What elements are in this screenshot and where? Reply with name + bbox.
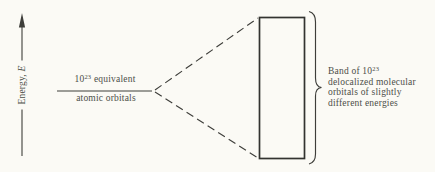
band-rectangle xyxy=(260,18,305,159)
energy-axis-label-text: Energy, xyxy=(17,72,27,105)
band-description-line2: delocalized molecular xyxy=(328,77,432,88)
energy-band-diagram: Energy, E 1023 equivalent atomic orbital… xyxy=(0,0,435,172)
band-brace xyxy=(309,12,322,165)
count-exponent: 23 xyxy=(84,73,91,80)
energy-variable: E xyxy=(17,65,27,71)
band-description-line1: Band of 1023 xyxy=(328,66,432,77)
band-description-line3: orbitals of slightly xyxy=(328,87,432,98)
atomic-orbitals-count-label: 1023 equivalent xyxy=(75,74,136,85)
energy-axis-arrowhead xyxy=(19,13,25,28)
energy-axis-label: Energy, E xyxy=(17,60,28,109)
count-rest: equivalent xyxy=(91,74,135,84)
count-base: 10 xyxy=(75,74,85,84)
band-line1-text: Band of 10 xyxy=(328,66,372,76)
band-description: Band of 1023 delocalized molecular orbit… xyxy=(328,66,432,108)
dashed-line-upper xyxy=(155,18,258,90)
dashed-line-lower xyxy=(155,92,258,158)
band-line1-exponent: 23 xyxy=(372,65,379,72)
band-description-line4: different energies xyxy=(328,98,432,109)
atomic-orbitals-label: atomic orbitals xyxy=(76,93,136,104)
